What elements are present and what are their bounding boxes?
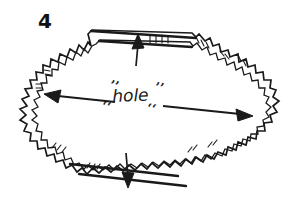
figure-canvas: 4 ’’ ‘‘ hole ’’ ‘‘ [0, 0, 295, 207]
figure-number-label: 4 [38, 11, 52, 31]
hole-annotation-group: ’’ ‘‘ hole ’’ ‘‘ [108, 86, 164, 114]
quote-open-lower-mark: ‘‘ [101, 99, 112, 113]
hole-dimension-label: hole [112, 87, 149, 105]
quote-close-upper-mark: ’’ [154, 80, 165, 94]
quote-close-lower-mark: ‘‘ [146, 101, 157, 115]
